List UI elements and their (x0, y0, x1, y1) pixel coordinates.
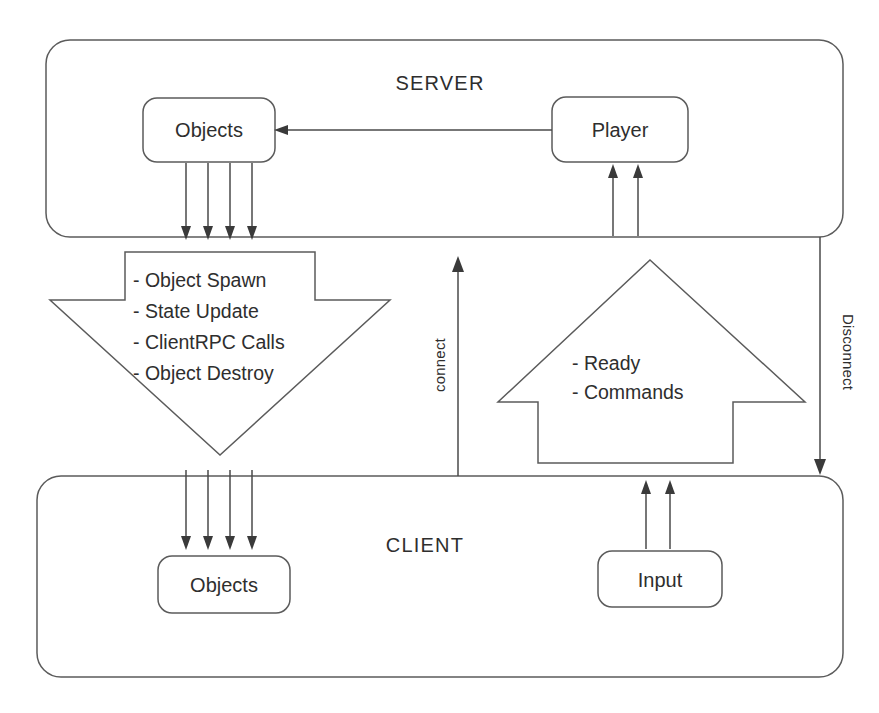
diagram-canvas: SERVER CLIENT Objects Player Objects Inp… (0, 0, 879, 713)
server-player-label: Player (592, 119, 649, 141)
down-arrow-item-1: - State Update (133, 300, 259, 322)
up-arrow-item-0: - Ready (572, 352, 641, 374)
network-flow-diagram: SERVER CLIENT Objects Player Objects Inp… (0, 0, 879, 713)
server-objects-label: Objects (175, 119, 243, 141)
down-arrow-item-2: - ClientRPC Calls (133, 331, 285, 353)
down-arrow-item-3: - Object Destroy (133, 362, 274, 384)
up-arrow-item-1: - Commands (572, 381, 684, 403)
connect-arrow (452, 256, 464, 476)
server-zone-label: SERVER (395, 72, 484, 94)
client-zone-label: CLIENT (386, 534, 464, 556)
down-arrow-item-0: - Object Spawn (133, 269, 266, 291)
disconnect-label: Disconnect (840, 314, 857, 391)
client-to-server-arrow-shape (498, 260, 805, 463)
client-objects-label: Objects (190, 574, 258, 596)
client-input-label: Input (638, 569, 683, 591)
connect-label: connect (431, 337, 448, 392)
disconnect-arrow (814, 237, 826, 475)
